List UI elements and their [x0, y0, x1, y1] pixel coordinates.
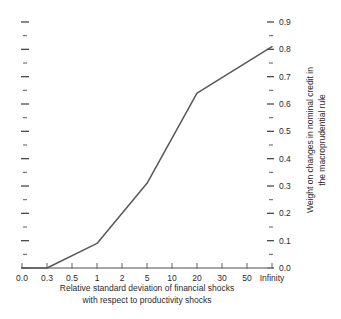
- x-tick-label: 0.5: [66, 273, 78, 283]
- y-tick-label: 0.8: [279, 44, 291, 54]
- y-axis-right-minor-ticks: [269, 36, 273, 255]
- x-tick-label: 20: [192, 273, 202, 283]
- x-tick-label: 0.0: [16, 273, 28, 283]
- x-tick-label: 2: [120, 273, 125, 283]
- y-tick-label: 0.6: [279, 99, 291, 109]
- y-tick-label: 0.0: [279, 263, 291, 273]
- chart-figure: 0.00.10.20.30.40.50.60.70.80.9 0.00.30.5…: [0, 0, 341, 319]
- x-tick-label: 1: [95, 273, 100, 283]
- x-tick-label: 30: [217, 273, 227, 283]
- x-axis-tick-labels: 0.00.30.512510203050Infinity: [16, 273, 285, 283]
- y-tick-label: 0.1: [279, 236, 291, 246]
- data-series-line: [22, 47, 272, 268]
- x-tick-label: 0.3: [41, 273, 53, 283]
- x-axis-title-line1: Relative standard deviation of financial…: [60, 283, 234, 293]
- line-chart: 0.00.10.20.30.40.50.60.70.80.9 0.00.30.5…: [0, 0, 341, 319]
- y-axis-title-line2: the macroprudential rule: [317, 94, 327, 186]
- x-tick-label: 50: [242, 273, 252, 283]
- y-tick-label: 0.9: [279, 17, 291, 27]
- y-tick-label: 0.3: [279, 181, 291, 191]
- x-tick-label: 10: [167, 273, 177, 283]
- x-tick-label: Infinity: [260, 273, 285, 283]
- y-axis-left-minor-ticks: [23, 36, 27, 255]
- y-tick-label: 0.4: [279, 154, 291, 164]
- x-axis-title-line2: with respect to productivity shocks: [82, 295, 212, 305]
- y-axis-tick-labels: 0.00.10.20.30.40.50.60.70.80.9: [279, 17, 291, 273]
- y-tick-label: 0.2: [279, 208, 291, 218]
- y-axis-title-line1: Weight on changes in nominal credit in: [305, 67, 315, 213]
- y-tick-label: 0.5: [279, 126, 291, 136]
- y-tick-label: 0.7: [279, 72, 291, 82]
- x-tick-label: 5: [145, 273, 150, 283]
